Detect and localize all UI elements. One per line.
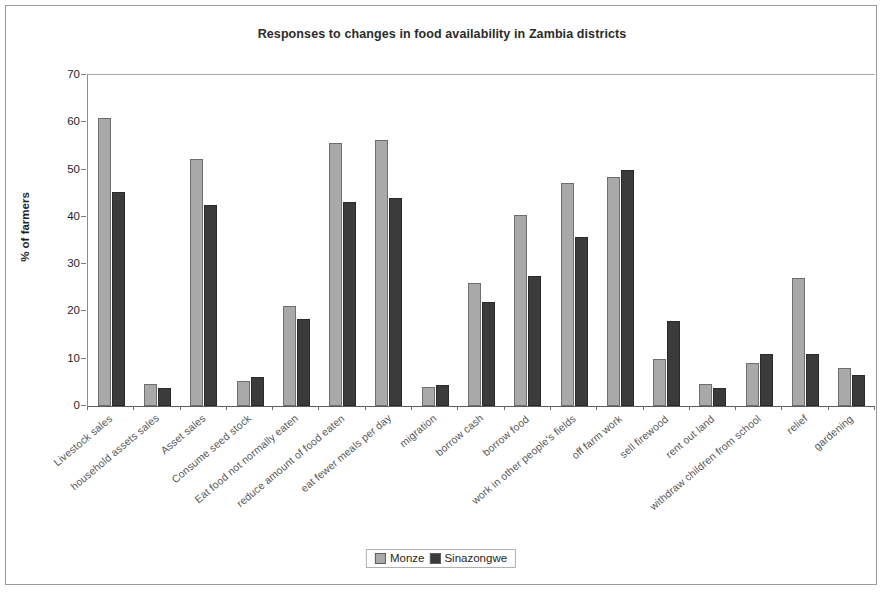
y-tick-mark: [81, 263, 86, 264]
bar-monze: [607, 177, 620, 406]
chart-figure: Responses to changes in food availabilit…: [5, 5, 877, 585]
y-tick-mark: [81, 216, 86, 217]
bar-group: [551, 75, 597, 406]
bar-group: [505, 75, 551, 406]
bar-group: [597, 75, 643, 406]
bar-sina: [158, 388, 171, 406]
legend-swatch-sina: [429, 553, 440, 564]
bar-group: [782, 75, 828, 406]
x-tick-label: gardening: [811, 412, 855, 452]
bar-group: [88, 75, 134, 406]
bar-sina: [297, 319, 310, 406]
bar-monze: [746, 363, 759, 406]
bar-group: [829, 75, 875, 406]
bar-monze: [792, 278, 805, 406]
bar-group: [273, 75, 319, 406]
x-axis-tick-labels: Livestock saleshousehold assets salesAss…: [6, 406, 878, 536]
bar-group: [319, 75, 365, 406]
bars-layer: [88, 75, 875, 406]
bar-sina: [112, 192, 125, 406]
bar-sina: [436, 385, 449, 406]
y-tick-mark: [81, 358, 86, 359]
chart-title: Responses to changes in food availabilit…: [6, 27, 878, 41]
bar-sina: [482, 302, 495, 406]
x-tick-label: eat fewer meals per day: [298, 412, 393, 495]
bar-group: [644, 75, 690, 406]
bar-monze: [468, 283, 481, 406]
y-tick-mark: [81, 169, 86, 170]
bar-sina: [575, 237, 588, 406]
bar-sina: [343, 202, 356, 406]
bar-sina: [389, 198, 402, 406]
bar-monze: [237, 381, 250, 406]
legend-label: Sinazongwe: [444, 552, 507, 564]
bar-sina: [204, 205, 217, 406]
bar-sina: [621, 170, 634, 406]
bar-monze: [144, 384, 157, 406]
bar-monze: [190, 159, 203, 406]
x-tick-label: relief: [784, 412, 810, 436]
bar-group: [412, 75, 458, 406]
y-tick-mark: [81, 310, 86, 311]
bar-group: [690, 75, 736, 406]
x-tick-label: borrow cash: [433, 412, 485, 459]
x-tick-label: household assets sales: [68, 412, 161, 493]
legend-swatch-monze: [375, 553, 386, 564]
bar-sina: [251, 377, 264, 406]
legend-entry-monze: Monze: [375, 552, 425, 564]
bar-sina: [760, 354, 773, 406]
bar-monze: [422, 387, 435, 406]
bar-sina: [528, 276, 541, 406]
chart-legend: MonzeSinazongwe: [366, 549, 516, 568]
y-tick-mark: [81, 74, 86, 75]
bar-monze: [699, 384, 712, 406]
x-tick-label: sell firewood: [617, 412, 670, 460]
bar-monze: [98, 118, 111, 406]
bar-monze: [375, 140, 388, 406]
bar-group: [736, 75, 782, 406]
bar-monze: [561, 183, 574, 406]
bar-monze: [838, 368, 851, 406]
bar-group: [181, 75, 227, 406]
bar-group: [134, 75, 180, 406]
bar-monze: [653, 359, 666, 406]
bar-monze: [514, 215, 527, 407]
legend-entry-sina: Sinazongwe: [429, 552, 507, 564]
bar-group: [227, 75, 273, 406]
bar-group: [458, 75, 504, 406]
legend-label: Monze: [390, 552, 425, 564]
x-tick-label: migration: [397, 412, 438, 450]
bar-monze: [329, 143, 342, 406]
y-axis-tick-marks: [6, 74, 96, 406]
bar-monze: [283, 306, 296, 406]
bar-group: [366, 75, 412, 406]
bar-sina: [713, 388, 726, 406]
bar-sina: [852, 375, 865, 406]
x-tick-label: Consume seed stock: [169, 412, 253, 485]
bar-sina: [806, 354, 819, 406]
y-tick-mark: [81, 121, 86, 122]
bar-sina: [667, 321, 680, 406]
plot-area: [87, 74, 875, 407]
